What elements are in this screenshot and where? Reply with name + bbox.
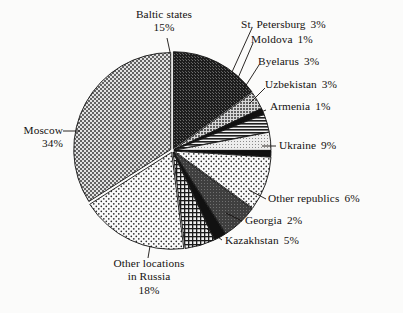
slice-label-baltic-states: Baltic states 15% <box>102 8 226 35</box>
label-pct-ukraine: 9% <box>321 139 336 151</box>
slice-label-other-republics: Other republics6% <box>268 192 360 205</box>
label-text-kazakhstan: Kazakhstan <box>225 234 279 246</box>
leader-moldova <box>238 43 253 78</box>
slice-label-other-locations-russia: Other locations in Russia 18% <box>84 257 214 297</box>
label-text-otherreps: Other republics <box>268 192 339 204</box>
slice-label-moscow: Moscow 34% <box>0 124 63 151</box>
label-text-petersburg: St. Petersburg <box>241 18 306 30</box>
label-pct-otherreps: 6% <box>344 192 359 204</box>
label-pct-georgia: 2% <box>287 214 302 226</box>
label-text-baltic: Baltic states <box>136 8 192 20</box>
label-pct-petersburg: 3% <box>311 18 326 30</box>
label-text-georgia: Georgia <box>245 214 282 226</box>
label-text-byelarus: Byelarus <box>258 55 299 67</box>
label-text-armenia: Armenia <box>270 100 310 112</box>
slice-label-ukraine: Ukraine9% <box>279 139 336 152</box>
label-pct-baltic: 15% <box>153 21 174 33</box>
label-text-ukraine: Ukraine <box>279 139 316 151</box>
slice-label-uzbekistan: Uzbekistan3% <box>265 78 337 91</box>
label-text-otherrus-line1: Other locations <box>114 257 185 269</box>
slice-label-moldova: Moldova1% <box>251 33 313 46</box>
label-pct-armenia: 1% <box>315 100 330 112</box>
slice-label-byelarus: Byelarus3% <box>258 55 319 68</box>
slice-label-st-petersburg: St. Petersburg3% <box>241 18 326 31</box>
label-text-uzbekistan: Uzbekistan <box>265 78 317 90</box>
label-text-moldova: Moldova <box>251 33 293 45</box>
label-text-otherrus-line2: in Russia <box>128 270 171 282</box>
leader-petersburg <box>232 28 252 72</box>
leader-byelarus <box>243 65 259 90</box>
label-text-moscow: Moscow <box>23 124 63 136</box>
slice-label-kazakhstan: Kazakhstan5% <box>225 234 299 247</box>
pie-slices-group <box>74 52 271 250</box>
label-pct-kazakhstan: 5% <box>284 234 299 246</box>
pie-chart-figure: Baltic states 15% St. Petersburg3% Moldo… <box>0 0 403 313</box>
label-pct-moscow: 34% <box>42 137 63 149</box>
label-pct-otherrus: 18% <box>138 284 159 296</box>
label-pct-byelarus: 3% <box>304 55 319 67</box>
leader-baltic <box>167 38 170 52</box>
slice-label-georgia: Georgia2% <box>245 214 302 227</box>
slice-label-armenia: Armenia1% <box>270 100 331 113</box>
label-pct-uzbekistan: 3% <box>322 78 337 90</box>
label-pct-moldova: 1% <box>298 33 313 45</box>
